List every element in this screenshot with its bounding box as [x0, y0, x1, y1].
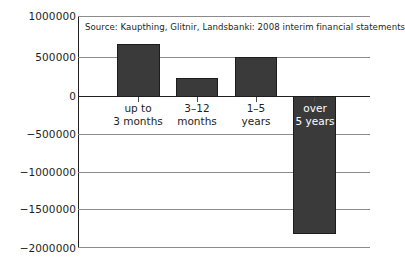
y-axis-tick-label: 500000	[0, 52, 76, 63]
y-axis-tick-label: −2000000	[0, 243, 76, 254]
gridline-minus2000000	[78, 247, 370, 248]
gridline-1000000	[78, 16, 370, 17]
y-axis-tick-label: −500000	[0, 129, 76, 140]
plot-area: Source: Kaupthing, Glitnir, Landsbanki: …	[78, 16, 370, 248]
category-label-line: 5 years	[273, 115, 357, 128]
category-label-over-5-years: over 5 years	[273, 102, 357, 128]
y-axis-tick-label: 1000000	[0, 11, 76, 22]
y-axis-tick-label: −1000000	[0, 167, 76, 178]
bar-up-to-3-months	[117, 44, 160, 97]
bar-1-5-years	[235, 57, 277, 97]
bar-3-12-months	[176, 78, 218, 97]
y-axis-tick-label: −1500000	[0, 204, 76, 215]
y-axis-line	[78, 16, 79, 248]
category-label-line: over	[273, 102, 357, 115]
source-note: Source: Kaupthing, Glitnir, Landsbanki: …	[85, 22, 405, 33]
y-axis-tick-label: 0	[0, 91, 76, 102]
